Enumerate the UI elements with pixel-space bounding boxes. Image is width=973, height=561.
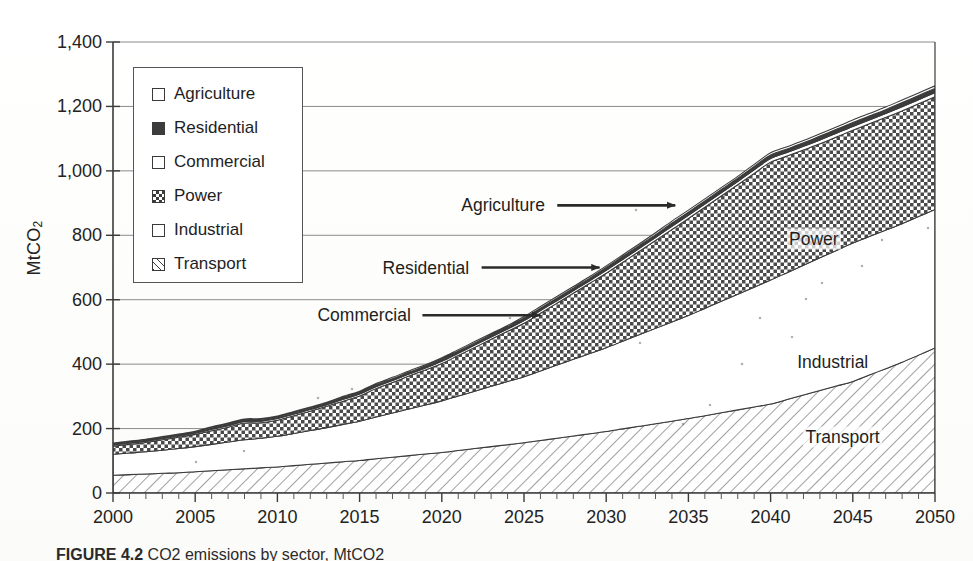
x-tick-label: 2050 xyxy=(900,507,970,528)
figure-caption-text: CO2 emissions by sector, MtCO2 xyxy=(148,546,385,561)
legend-label: Commercial xyxy=(174,152,265,172)
y-tick-label: 400 xyxy=(30,354,102,375)
figure-caption: FIGURE 4.2 CO2 emissions by sector, MtCO… xyxy=(56,546,384,561)
x-tick-label: 2015 xyxy=(325,507,395,528)
annotation-residential: Residential xyxy=(383,257,470,278)
x-tick-label: 2020 xyxy=(407,507,477,528)
legend-item-transport[interactable]: Transport xyxy=(134,247,302,281)
legend-label: Industrial xyxy=(174,220,243,240)
x-tick-label: 2010 xyxy=(242,507,312,528)
y-tick-label: 600 xyxy=(30,289,102,310)
legend-item-agriculture[interactable]: Agriculture xyxy=(134,77,302,111)
annotation-commercial: Commercial xyxy=(317,305,410,326)
legend-swatch-residential xyxy=(152,122,165,135)
legend-item-residential[interactable]: Residential xyxy=(134,111,302,145)
figure-container: MtCO2 1,4001,2001,0008006004002000 20002… xyxy=(0,0,973,561)
x-tick-label: 2000 xyxy=(78,507,148,528)
legend-item-power[interactable]: Power xyxy=(134,179,302,213)
x-tick-label: 2035 xyxy=(653,507,723,528)
y-tick-label: 1,000 xyxy=(30,160,102,181)
legend-box: AgricultureResidentialCommercialPowerInd… xyxy=(133,67,303,283)
y-tick-label: 1,200 xyxy=(30,96,102,117)
legend-swatch-industrial xyxy=(152,224,165,237)
y-tick-label: 0 xyxy=(30,483,102,504)
legend-item-industrial[interactable]: Industrial xyxy=(134,213,302,247)
figure-caption-label: FIGURE 4.2 xyxy=(56,546,143,561)
legend-label: Power xyxy=(174,186,222,206)
x-tick-label: 2030 xyxy=(571,507,641,528)
x-tick-label: 2040 xyxy=(736,507,806,528)
legend-label: Residential xyxy=(174,118,258,138)
legend-swatch-power xyxy=(152,190,165,203)
x-tick-label: 2045 xyxy=(818,507,888,528)
legend-label: Transport xyxy=(174,254,246,274)
legend-item-commercial[interactable]: Commercial xyxy=(134,145,302,179)
legend-swatch-commercial xyxy=(152,156,165,169)
y-tick-label: 200 xyxy=(30,418,102,439)
legend-swatch-agriculture xyxy=(152,88,165,101)
annotation-industrial: Industrial xyxy=(795,351,870,372)
x-axis-ticks-major xyxy=(113,493,935,502)
annotation-transport: Transport xyxy=(803,426,881,447)
y-tick-label: 800 xyxy=(30,225,102,246)
y-tick-label: 1,400 xyxy=(30,32,102,53)
legend-label: Agriculture xyxy=(174,84,255,104)
x-tick-label: 2005 xyxy=(160,507,230,528)
annotation-power: Power xyxy=(787,229,841,250)
legend-swatch-transport xyxy=(152,258,165,271)
annotation-agriculture: Agriculture xyxy=(461,195,545,216)
x-tick-label: 2025 xyxy=(489,507,559,528)
